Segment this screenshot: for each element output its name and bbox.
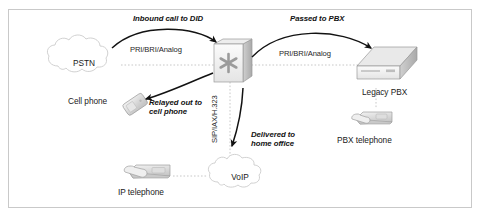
link-label-asterisk-pbx: PRI/BRI/Analog (279, 50, 331, 59)
node-label-pbx-telephone: PBX telephone (337, 136, 392, 145)
arrow-relayed-cell (146, 73, 213, 99)
diagram-canvas: PSTN VoIP Cell phone Legacy PBX PBX tele… (0, 0, 482, 222)
flow-label-relayed: Relayed out to cell phone (149, 99, 202, 116)
pbx-appliance-icon (357, 47, 417, 79)
flow-label-relayed-line2: cell phone (149, 107, 187, 116)
desk-phone-icon-ip (124, 165, 170, 178)
flow-label-passed: Passed to PBX (290, 15, 344, 24)
cloud-label-voip: VoIP (218, 173, 262, 182)
flow-label-relayed-line1: Relayed out to (149, 98, 202, 107)
flow-label-delivered-line2: home office (251, 139, 294, 148)
link-label-asterisk-voip: SIP/IAX/H.323 (211, 95, 220, 143)
flow-label-delivered: Delivered to home office (251, 131, 295, 148)
cloud-label-pstn: PSTN (61, 59, 107, 68)
node-label-legacy-pbx: Legacy PBX (362, 88, 407, 97)
server-box-icon-asterisk (214, 39, 252, 82)
link-label-pstn-asterisk: PRI/BRI/Analog (130, 46, 182, 55)
arrow-delivered-home (232, 88, 243, 146)
diagram-artwork (0, 0, 482, 222)
desk-phone-icon-pbx (352, 112, 392, 124)
mobile-phone-icon (122, 92, 148, 116)
flow-label-inbound: Inbound call to DID (133, 15, 203, 24)
flow-label-delivered-line1: Delivered to (251, 130, 295, 139)
node-label-cell-phone: Cell phone (68, 97, 107, 106)
node-label-ip-telephone: IP telephone (118, 188, 164, 197)
